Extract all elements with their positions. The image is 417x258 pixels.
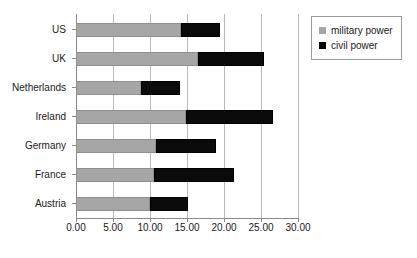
x-tick-mark — [76, 218, 77, 222]
x-tick-mark — [150, 218, 151, 222]
y-tick-label-germany: Germany — [25, 139, 66, 153]
bar-row — [76, 168, 298, 182]
bar-segment-civil-power — [154, 168, 233, 182]
x-tick-mark — [187, 218, 188, 222]
y-tick-mark — [72, 203, 76, 204]
bar-segment-military-power — [76, 110, 186, 124]
x-tick-label-15.00: 15.00 — [174, 222, 199, 233]
bar-segment-military-power — [76, 197, 150, 211]
legend-swatch-military-icon — [319, 27, 326, 34]
bar-row — [76, 110, 298, 124]
x-tick-label-10.00: 10.00 — [137, 222, 162, 233]
legend-item: military power — [319, 23, 393, 37]
bar-segment-civil-power — [181, 23, 219, 37]
gridline-30.00 — [298, 14, 299, 218]
bar-row — [76, 52, 298, 66]
chart-legend: military powercivil power — [311, 16, 402, 60]
bar-segment-civil-power — [150, 197, 188, 211]
y-tick-label-uk: UK — [52, 52, 66, 66]
y-tick-label-ireland: Ireland — [35, 110, 66, 124]
x-tick-mark — [224, 218, 225, 222]
y-tick-mark — [72, 29, 76, 30]
y-tick-mark — [72, 116, 76, 117]
x-tick-label-0.00: 0.00 — [66, 222, 85, 233]
bar-segment-civil-power — [186, 110, 273, 124]
bar-segment-military-power — [76, 52, 198, 66]
legend-label: military power — [331, 25, 393, 36]
bar-row — [76, 139, 298, 153]
plot-area — [76, 14, 298, 218]
x-tick-label-30.00: 30.00 — [285, 222, 310, 233]
bar-row — [76, 197, 298, 211]
legend-swatch-civil-icon — [319, 42, 326, 49]
legend-label: civil power — [331, 40, 378, 51]
y-tick-label-netherlands: Netherlands — [12, 81, 66, 95]
y-tick-mark — [72, 174, 76, 175]
y-tick-mark — [72, 145, 76, 146]
bar-row — [76, 23, 298, 37]
y-tick-mark — [72, 58, 76, 59]
y-tick-label-austria: Austria — [35, 197, 66, 211]
bar-row — [76, 81, 298, 95]
bar-segment-military-power — [76, 139, 156, 153]
y-tick-mark — [72, 87, 76, 88]
x-tick-mark — [298, 218, 299, 222]
legend-item: civil power — [319, 38, 393, 52]
x-tick-label-25.00: 25.00 — [248, 222, 273, 233]
x-tick-label-5.00: 5.00 — [103, 222, 122, 233]
bar-segment-military-power — [76, 168, 154, 182]
bar-segment-civil-power — [141, 81, 180, 95]
bar-segment-military-power — [76, 81, 141, 95]
bar-segment-military-power — [76, 23, 181, 37]
bar-segment-civil-power — [156, 139, 216, 153]
x-axis-labels: 0.005.0010.0015.0020.0025.0030.00 — [0, 222, 417, 238]
bar-segment-civil-power — [198, 52, 264, 66]
x-tick-label-20.00: 20.00 — [211, 222, 236, 233]
y-tick-label-us: US — [52, 23, 66, 37]
x-tick-mark — [261, 218, 262, 222]
x-tick-mark — [113, 218, 114, 222]
y-axis-labels: USUKNetherlandsIrelandGermanyFranceAustr… — [0, 14, 72, 218]
stacked-bar-chart: USUKNetherlandsIrelandGermanyFranceAustr… — [0, 0, 417, 258]
y-tick-label-france: France — [35, 168, 66, 182]
